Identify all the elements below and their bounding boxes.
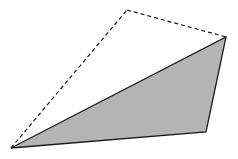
geometry-diagram <box>0 0 238 159</box>
